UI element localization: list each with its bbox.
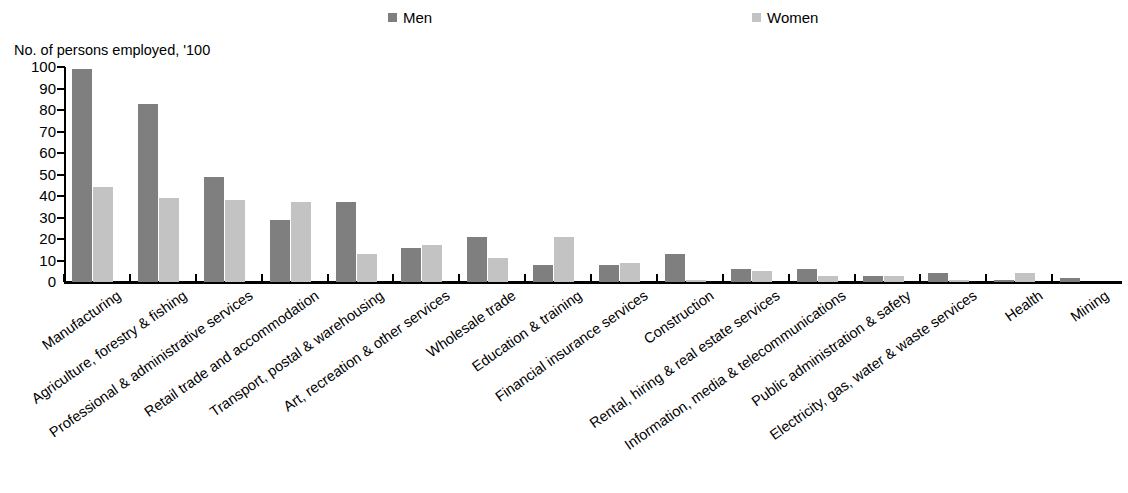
bar-men-9	[665, 254, 685, 282]
bar-men-2	[204, 177, 224, 282]
bar-men-5	[401, 248, 421, 282]
bar-men-6	[467, 237, 487, 282]
bar-men-1	[138, 104, 158, 282]
bar-men-0	[72, 69, 92, 282]
bar-women-4	[357, 254, 377, 282]
bar-women-6	[488, 258, 508, 282]
bar-men-8	[599, 265, 619, 282]
x-axis-category-labels: ManufacturingAgriculture, forestry & fis…	[0, 282, 1128, 493]
bar-women-3	[291, 202, 311, 282]
bar-men-13	[928, 273, 948, 282]
bar-women-0	[93, 187, 113, 282]
bar-women-5	[422, 245, 442, 282]
bar-women-1	[159, 198, 179, 282]
plot-area: 0102030405060708090100	[0, 0, 1128, 300]
bar-men-11	[797, 269, 817, 282]
x-axis-category-label: Mining	[1068, 288, 1112, 325]
bar-men-10	[731, 269, 751, 282]
bar-women-14	[1015, 273, 1035, 282]
bar-women-7	[554, 237, 574, 282]
bar-women-8	[620, 263, 640, 282]
bar-women-2	[225, 200, 245, 282]
bar-men-4	[336, 202, 356, 282]
bar-men-3	[270, 220, 290, 282]
bars-layer	[0, 0, 1128, 282]
x-axis-category-label: Health	[1003, 288, 1046, 324]
bar-women-10	[752, 271, 772, 282]
x-axis-category-label: Education & training	[470, 288, 585, 375]
bar-men-7	[533, 265, 553, 282]
